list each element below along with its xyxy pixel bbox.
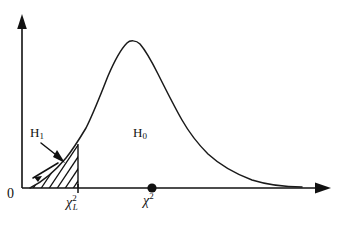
alternative-hypothesis-label: H1 [30, 126, 44, 139]
h0-subscript: 0 [142, 131, 147, 141]
h1-pointer-head-icon [53, 150, 65, 163]
chi-statistic-superscript: 2 [149, 191, 154, 201]
null-hypothesis-label: H0 [133, 126, 147, 139]
chi-square-plot [0, 0, 337, 227]
chi-subscript: L [73, 202, 78, 212]
arrow-up-icon [17, 14, 27, 29]
chi-square-figure: 0 H1 H0 χ2L χ2 [0, 0, 337, 227]
chi-square-density-curve [30, 41, 302, 188]
rejection-region [20, 136, 116, 196]
h0-symbol: H [133, 125, 142, 140]
origin-label: 0 [7, 187, 14, 201]
critical-value-label: χ2L [66, 196, 82, 210]
h1-symbol: H [30, 125, 39, 140]
arrow-right-icon [315, 183, 331, 194]
statistic-label: χ2 [143, 194, 154, 208]
h1-subscript: 1 [39, 131, 44, 141]
